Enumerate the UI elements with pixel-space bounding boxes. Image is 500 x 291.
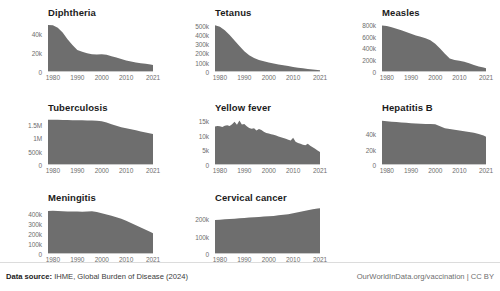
chart-title: Cervical cancer [215, 192, 287, 203]
area-series [48, 207, 153, 254]
y-tick-label: 40k [366, 131, 376, 138]
y-tick-label: 1M [33, 135, 42, 142]
area-series [48, 117, 153, 165]
y-tick-label: 0 [205, 69, 209, 76]
x-axis-line [215, 71, 320, 72]
chart-title: Meningitis [48, 192, 96, 203]
chart-panel[interactable]: Tetanus0100k200k300k400k500k198019902000… [167, 0, 334, 95]
x-axis-labels: 19801990200020102021 [382, 74, 486, 86]
x-axis-labels: 19801990200020102021 [48, 74, 153, 86]
x-tick-label: 1990 [404, 167, 418, 174]
area-series [215, 117, 320, 165]
x-tick-label: 2000 [428, 167, 442, 174]
x-axis-line [48, 253, 153, 254]
plot-area[interactable] [382, 22, 486, 72]
x-tick-label: 1990 [237, 167, 251, 174]
x-axis-labels: 19801990200020102021 [48, 167, 153, 179]
footer-source-text: IHME, Global Burden of Disease (2024) [54, 272, 188, 281]
y-tick-label: 500k [195, 22, 209, 29]
chart-panel[interactable]: Tuberculosis0500k1M1.5M19801990200020102… [0, 95, 167, 185]
x-tick-label: 2021 [479, 167, 493, 174]
y-tick-label: 15k [199, 118, 209, 125]
y-tick-label: 800k [362, 21, 376, 28]
plot-area[interactable] [48, 207, 153, 254]
y-tick-label: 40k [32, 30, 42, 37]
x-tick-label: 1990 [404, 74, 418, 81]
x-axis-labels: 19801990200020102021 [215, 167, 320, 179]
y-tick-label: 600k [362, 33, 376, 40]
x-tick-label: 2021 [479, 74, 493, 81]
chart-panel[interactable]: Meningitis0100k200k300k400k1980199020002… [0, 185, 167, 262]
y-axis-labels: 0500k1M1.5M [0, 117, 46, 165]
x-tick-label: 2010 [452, 167, 466, 174]
x-axis-line [215, 164, 320, 165]
y-tick-label: 20k [32, 49, 42, 56]
y-tick-label: 200k [195, 216, 209, 223]
x-tick-label: 2021 [146, 167, 160, 174]
y-tick-label: 100k [195, 233, 209, 240]
chart-panel[interactable]: Diphtheria020k40k19801990200020102021 [0, 0, 167, 95]
y-tick-label: 400k [362, 45, 376, 52]
y-tick-label: 0 [38, 69, 42, 76]
y-tick-label: 100k [28, 241, 42, 248]
x-tick-label: 1980 [380, 167, 394, 174]
x-tick-label: 1980 [213, 74, 227, 81]
y-tick-label: 0 [372, 69, 376, 76]
y-axis-labels: 05k10k15k [167, 117, 213, 165]
x-axis-line [382, 164, 486, 165]
x-tick-label: 1980 [213, 167, 227, 174]
chart-title: Tetanus [215, 7, 251, 18]
y-tick-label: 10k [199, 132, 209, 139]
x-tick-label: 1980 [46, 167, 60, 174]
x-tick-label: 1980 [380, 74, 394, 81]
y-tick-label: 100k [195, 59, 209, 66]
chart-panel[interactable]: Cervical cancer0100k200k1980199020002010… [167, 185, 334, 262]
x-axis-line [215, 253, 320, 254]
y-tick-label: 0 [372, 162, 376, 169]
y-tick-label: 400k [28, 211, 42, 218]
x-tick-label: 2000 [428, 74, 442, 81]
area-series [215, 22, 320, 72]
x-axis-line [48, 71, 153, 72]
chart-title: Hepatitis B [382, 102, 433, 113]
y-axis-labels: 0100k200k [167, 207, 213, 254]
x-tick-label: 2021 [313, 74, 327, 81]
chart-footer: Data source: IHME, Global Burden of Dise… [0, 262, 500, 291]
x-axis-labels: 19801990200020102021 [215, 74, 320, 86]
x-tick-label: 2000 [262, 167, 276, 174]
footer-credit-link[interactable]: OurWorldInData.org/vaccination | CC BY [357, 272, 494, 281]
y-axis-labels: 020k40k [334, 117, 380, 165]
y-tick-label: 500k [28, 148, 42, 155]
x-tick-label: 2010 [119, 167, 133, 174]
plot-area[interactable] [48, 117, 153, 165]
plot-area[interactable] [48, 22, 153, 72]
y-tick-label: 0 [38, 162, 42, 169]
chart-title: Diphtheria [48, 7, 96, 18]
x-tick-label: 2010 [452, 74, 466, 81]
chart-title: Measles [382, 7, 420, 18]
x-tick-label: 2021 [313, 167, 327, 174]
plot-area[interactable] [382, 117, 486, 165]
chart-panel[interactable]: Hepatitis B020k40k19801990200020102021 [334, 95, 500, 185]
x-tick-label: 2000 [262, 74, 276, 81]
x-tick-label: 2010 [286, 167, 300, 174]
y-tick-label: 200k [195, 50, 209, 57]
plot-area[interactable] [215, 207, 320, 254]
y-axis-labels: 0100k200k300k400k [0, 207, 46, 254]
y-tick-label: 400k [195, 31, 209, 38]
area-series [215, 207, 320, 254]
x-axis-line [48, 164, 153, 165]
x-axis-labels: 19801990200020102021 [382, 167, 486, 179]
chart-panel[interactable]: Yellow fever05k10k15k1980199020002010202… [167, 95, 334, 185]
y-tick-label: 1.5M [28, 122, 42, 129]
plot-area[interactable] [215, 117, 320, 165]
small-multiples-grid: Diphtheria020k40k19801990200020102021Tet… [0, 0, 500, 262]
chart-panel[interactable]: Measles0200k400k600k800k1980199020002010… [334, 0, 500, 95]
x-tick-label: 2000 [95, 74, 109, 81]
y-axis-labels: 020k40k [0, 22, 46, 72]
y-tick-label: 0 [205, 251, 209, 258]
x-tick-label: 2000 [95, 167, 109, 174]
plot-area[interactable] [215, 22, 320, 72]
x-tick-label: 2010 [119, 74, 133, 81]
chart-title: Yellow fever [215, 102, 271, 113]
